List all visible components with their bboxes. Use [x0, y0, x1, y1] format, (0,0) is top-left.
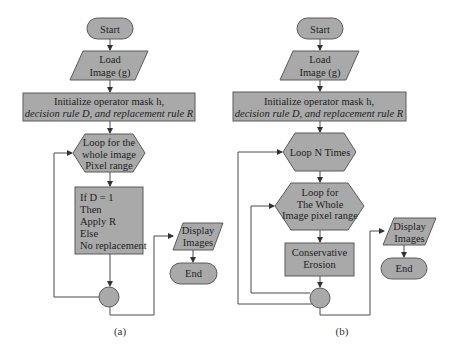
display-images-io: Display Images [383, 218, 436, 245]
process-line-3: Apply R [80, 216, 116, 227]
loop-whole-image: Loop for The Whole Image pixel range [275, 183, 364, 230]
initialize-process: Initialize operator mask h, decision rul… [233, 92, 406, 121]
load-image-io: Load Image (g) [70, 51, 148, 80]
loop-connector-circle [99, 287, 119, 307]
process-line-4: Else [80, 228, 98, 239]
loop-n-label: Loop N Times [290, 147, 351, 158]
erosion-line-2: Erosion [303, 259, 336, 270]
process-line-2: Then [80, 204, 102, 215]
start-terminal: Start [297, 18, 343, 39]
init-line-1: Initialize operator mask h, [54, 96, 164, 107]
erosion-line-1: Conservative [292, 247, 348, 258]
display-line-1: Display [393, 221, 426, 232]
display-line-1: Display [182, 225, 215, 236]
display-images-io: Display Images [173, 223, 223, 250]
loop-line-2: whole image [82, 149, 136, 160]
loop-pixel-range: Loop for the whole image Pixel range [73, 134, 145, 172]
start-terminal: Start [87, 18, 133, 39]
load-label: Load [99, 54, 121, 65]
initialize-process: Initialize operator mask h, decision rul… [23, 93, 195, 121]
start-label: Start [100, 24, 120, 35]
loop-line-3: Pixel range [85, 160, 133, 171]
flowchart-a: Start Load Image (g) Initialize operator… [23, 18, 223, 338]
loop-connector-circle [310, 288, 330, 308]
start-label: Start [310, 24, 330, 35]
display-line-2: Images [183, 237, 213, 248]
end-terminal: End [170, 263, 217, 284]
end-terminal: End [381, 258, 427, 279]
load-label: Load [309, 54, 331, 65]
conservative-erosion-process: Conservative Erosion [285, 243, 354, 276]
load-label-2: Image (g) [299, 67, 341, 79]
loop-whole-line-2: The Whole [297, 199, 344, 210]
caption-b: (b) [336, 325, 349, 338]
load-image-io: Load Image (g) [280, 51, 359, 80]
end-label: End [396, 263, 414, 274]
loop-line-1: Loop for the [83, 137, 136, 148]
loop-n-times: Loop N Times [283, 133, 356, 171]
flowchart-b: Start Load Image (g) Initialize operator… [233, 18, 436, 338]
loop-whole-line-1: Loop for [301, 187, 339, 198]
process-line-5: No replacement [80, 240, 147, 251]
display-line-2: Images [394, 233, 424, 244]
caption-a: (a) [114, 325, 127, 338]
init-line-2: decision rule D, and replacement rule R [235, 108, 404, 119]
end-label: End [185, 268, 203, 279]
flowchart-canvas: Start Load Image (g) Initialize operator… [0, 0, 461, 355]
process-line-1: If D = 1 [80, 192, 114, 203]
init-line-2: decision rule D, and replacement rule R [25, 108, 194, 119]
load-label-2: Image (g) [89, 67, 131, 79]
decision-process: If D = 1 Then Apply R Else No replacemen… [75, 187, 147, 254]
init-line-1: Initialize operator mask h, [264, 96, 374, 107]
loop-whole-line-3: Image pixel range [282, 210, 358, 221]
